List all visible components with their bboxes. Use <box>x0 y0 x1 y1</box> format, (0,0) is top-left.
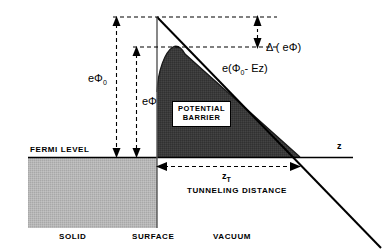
tunneling-barrier-diagram: Δ ( eΦ) e(Φ0- Ez) eΦ0 eΦ POTENTIAL BARRI… <box>0 0 389 252</box>
tunneling-distance-symbol-label: zT <box>222 172 231 183</box>
work-function-zero-label: eΦ0 <box>88 73 107 86</box>
work-function-zero-symbol: eΦ <box>88 72 103 84</box>
vacuum-region-label: VACUUM <box>213 233 251 241</box>
potential-barrier-callout: POTENTIAL BARRIER <box>172 101 231 127</box>
solid-region-label: SOLID <box>59 233 86 241</box>
potential-barrier-line1: POTENTIAL <box>178 104 225 113</box>
barrier-lowering-label: Δ ( eΦ) <box>266 42 301 53</box>
z-axis-label: z <box>337 142 342 151</box>
work-function-arrowhead-down <box>133 148 141 158</box>
tunneling-distance-label: TUNNELING DISTANCE <box>187 187 287 195</box>
image-potential-equation-label: e(Φ0- Ez) <box>222 63 268 76</box>
surface-region-label: SURFACE <box>132 233 174 241</box>
potential-barrier-line2: BARRIER <box>178 113 225 122</box>
tunneling-distance-subscript: T <box>227 176 231 183</box>
work-function-zero-subscript: 0 <box>103 79 107 86</box>
work-function-label: eΦ <box>142 96 157 107</box>
image-potential-eq-part2: - Ez) <box>244 62 267 74</box>
image-potential-eq-part1: e(Φ <box>222 62 241 74</box>
work-function-zero-arrowhead-down <box>113 148 121 158</box>
fermi-level-label: FERMI LEVEL <box>30 146 90 154</box>
solid-region-fill <box>28 158 157 228</box>
